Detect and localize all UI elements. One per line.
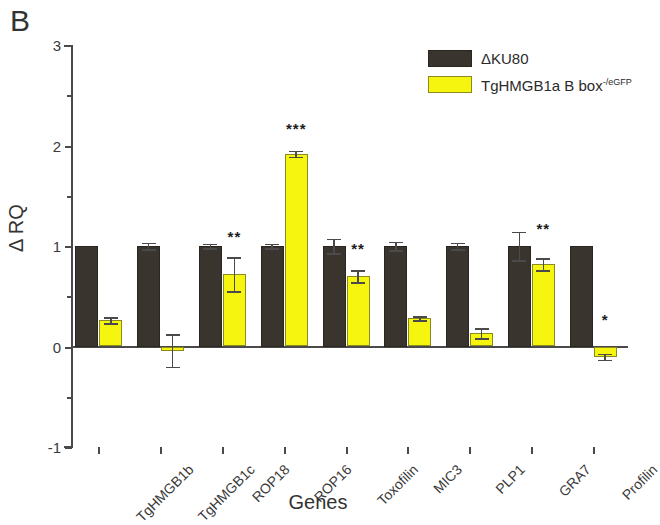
x-tick bbox=[222, 447, 224, 454]
error-bar-cap bbox=[475, 338, 489, 340]
x-axis-label-plp1: PLP1 bbox=[493, 462, 527, 496]
error-bar-cap bbox=[203, 248, 217, 250]
y-axis-top-cap bbox=[64, 45, 72, 47]
error-bar-cap bbox=[413, 320, 427, 322]
significance-marker: ** bbox=[228, 229, 242, 244]
y-tick-major bbox=[65, 146, 72, 148]
x-tick bbox=[531, 447, 533, 454]
x-tick bbox=[469, 447, 471, 454]
error-bar-cap bbox=[166, 334, 180, 336]
error-bar-cap bbox=[451, 243, 465, 245]
error-bar bbox=[234, 257, 236, 291]
significance-marker: ** bbox=[536, 221, 550, 236]
legend-swatch-dark bbox=[428, 50, 472, 67]
error-bar-cap bbox=[327, 239, 341, 241]
y-tick-label: 2 bbox=[53, 138, 61, 153]
y-tick-major bbox=[65, 246, 72, 248]
error-bar bbox=[519, 232, 521, 260]
error-bar-cap bbox=[598, 360, 612, 362]
legend: ΔKU80TgHMGB1a B box-/eGFP bbox=[428, 50, 632, 94]
significance-marker: *** bbox=[286, 121, 307, 136]
bar-tghmgb1b-ku80 bbox=[75, 246, 98, 347]
error-bar-cap bbox=[389, 250, 403, 252]
error-bar-cap bbox=[142, 249, 156, 251]
error-bar bbox=[172, 334, 174, 366]
legend-item-bbox: TgHMGB1a B box-/eGFP bbox=[428, 74, 632, 94]
error-bar-cap bbox=[536, 270, 550, 272]
x-tick bbox=[407, 447, 409, 454]
bar-rop18-ku80 bbox=[199, 246, 222, 347]
bar-profilin-ku80 bbox=[570, 246, 593, 347]
error-bar-cap bbox=[475, 328, 489, 330]
bar-mic3-ku80 bbox=[384, 246, 407, 347]
bar-rop16-ku80 bbox=[261, 246, 284, 347]
y-tick-minor bbox=[67, 95, 72, 97]
bar-tghmgb1c-ku80 bbox=[137, 246, 160, 347]
y-axis-title: Δ RQ bbox=[6, 204, 26, 252]
bar-plp1-ku80 bbox=[446, 246, 469, 347]
bar-rop16-bbox bbox=[285, 154, 308, 347]
error-bar-cap bbox=[265, 248, 279, 250]
error-bar-cap bbox=[142, 243, 156, 245]
significance-marker: ** bbox=[351, 241, 365, 256]
error-bar-cap bbox=[451, 249, 465, 251]
error-bar-cap bbox=[413, 316, 427, 318]
error-bar-cap bbox=[351, 282, 365, 284]
error-bar-cap bbox=[265, 244, 279, 246]
x-axis-title: Genes bbox=[0, 492, 636, 512]
error-bar-cap bbox=[536, 258, 550, 260]
y-tick-minor bbox=[67, 196, 72, 198]
error-bar-cap bbox=[512, 260, 526, 262]
error-bar-cap bbox=[351, 270, 365, 272]
panel-label: B bbox=[10, 6, 30, 36]
error-bar bbox=[481, 328, 483, 338]
y-tick-label: 1 bbox=[53, 239, 61, 254]
error-bar-cap bbox=[203, 244, 217, 246]
bar-toxofilin-ku80 bbox=[323, 246, 346, 347]
x-tick bbox=[160, 447, 162, 454]
error-bar-cap bbox=[104, 323, 118, 325]
error-bar-cap bbox=[227, 291, 241, 293]
y-tick-minor bbox=[67, 296, 72, 298]
error-bar bbox=[333, 239, 335, 253]
legend-item-ku80: ΔKU80 bbox=[428, 50, 632, 67]
error-bar-cap bbox=[166, 367, 180, 369]
error-bar-cap bbox=[104, 317, 118, 319]
error-bar-cap bbox=[598, 354, 612, 356]
error-bar bbox=[543, 258, 545, 270]
y-tick-label: 3 bbox=[53, 38, 61, 53]
y-tick-minor bbox=[67, 397, 72, 399]
y-tick-label: 0 bbox=[53, 339, 61, 354]
x-tick bbox=[593, 447, 595, 454]
bar-gra7-bbox bbox=[532, 264, 555, 346]
plot-area: 3210-1 ********** bbox=[72, 45, 628, 447]
bar-mic3-bbox bbox=[408, 318, 431, 346]
legend-label: TgHMGB1a B box-/eGFP bbox=[481, 74, 632, 94]
error-bar-cap bbox=[327, 253, 341, 255]
error-bar-cap bbox=[289, 151, 303, 153]
legend-swatch-yellow bbox=[428, 76, 472, 93]
y-tick-major bbox=[65, 347, 72, 349]
y-axis-bottom-cap bbox=[64, 446, 72, 448]
error-bar-cap bbox=[289, 157, 303, 159]
x-axis-label-mic3: MIC3 bbox=[431, 462, 465, 496]
legend-label: ΔKU80 bbox=[481, 51, 529, 67]
bar-toxofilin-bbox bbox=[347, 276, 370, 346]
error-bar bbox=[357, 270, 359, 282]
y-tick-label: -1 bbox=[48, 440, 61, 455]
x-tick bbox=[346, 447, 348, 454]
error-bar-cap bbox=[389, 242, 403, 244]
x-tick bbox=[284, 447, 286, 454]
error-bar-cap bbox=[512, 232, 526, 234]
legend-superscript: -/eGFP bbox=[603, 77, 632, 87]
error-bar-cap bbox=[227, 257, 241, 259]
x-tick bbox=[98, 447, 100, 454]
significance-marker: * bbox=[602, 312, 609, 327]
